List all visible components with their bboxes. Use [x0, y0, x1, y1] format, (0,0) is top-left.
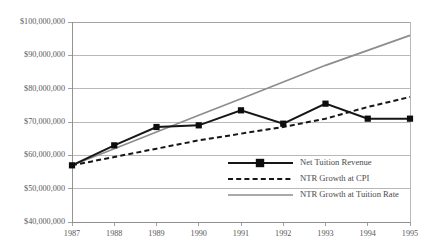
- y-tick-label: $80,000,000: [24, 84, 65, 93]
- data-point-marker: [196, 122, 202, 128]
- legend-marker-square: [256, 159, 264, 167]
- data-point-marker: [407, 116, 413, 122]
- legend-label-2: NTR Growth at CPI: [300, 173, 370, 183]
- data-point-marker: [365, 116, 371, 122]
- y-axis-ticks: $100,000,000$90,000,000$80,000,000$70,00…: [20, 17, 72, 226]
- y-tick-label: $40,000,000: [24, 217, 65, 226]
- x-tick-label: 1993: [317, 229, 333, 238]
- data-point-marker: [280, 121, 286, 127]
- y-tick-label: $60,000,000: [24, 150, 65, 159]
- x-tick-label: 1987: [64, 229, 80, 238]
- y-tick-label: $100,000,000: [20, 17, 65, 26]
- x-tick-label: 1995: [402, 229, 418, 238]
- y-tick-label: $50,000,000: [24, 184, 65, 193]
- data-point-marker: [153, 124, 159, 130]
- x-tick-label: 1990: [191, 229, 207, 238]
- y-tick-label: $90,000,000: [24, 50, 65, 59]
- x-tick-label: 1989: [148, 229, 164, 238]
- data-point-marker: [111, 142, 117, 148]
- legend-label-3: NTR Growth at Tuition Rate: [300, 189, 399, 199]
- chart-container: $100,000,000$90,000,000$80,000,000$70,00…: [0, 0, 446, 250]
- data-point-marker: [69, 162, 75, 168]
- x-tick-label: 1994: [360, 229, 376, 238]
- legend-label-1: Net Tuition Revenue: [300, 157, 372, 167]
- data-point-marker: [238, 107, 244, 113]
- x-tick-label: 1988: [106, 229, 122, 238]
- x-tick-label: 1991: [233, 229, 249, 238]
- data-point-marker: [322, 101, 328, 107]
- y-tick-label: $70,000,000: [24, 117, 65, 126]
- line-chart: $100,000,000$90,000,000$80,000,000$70,00…: [0, 0, 446, 250]
- x-tick-label: 1992: [275, 229, 291, 238]
- x-axis-ticks: 198719881989199019911992199319941995: [64, 222, 418, 238]
